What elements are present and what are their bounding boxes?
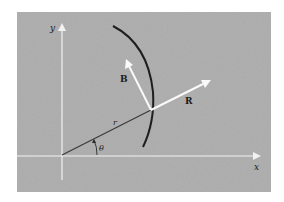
panel-grain [17,12,271,192]
x-axis-label: x [254,162,259,172]
y-axis-label: y [49,23,56,33]
vector-b-label: B [120,74,128,84]
vector-r-label: R [185,96,193,106]
angle-label: θ [99,144,104,153]
diagram-figure: y x r θ B R [0,0,284,202]
diagram-canvas: y x r θ B R [0,0,284,202]
